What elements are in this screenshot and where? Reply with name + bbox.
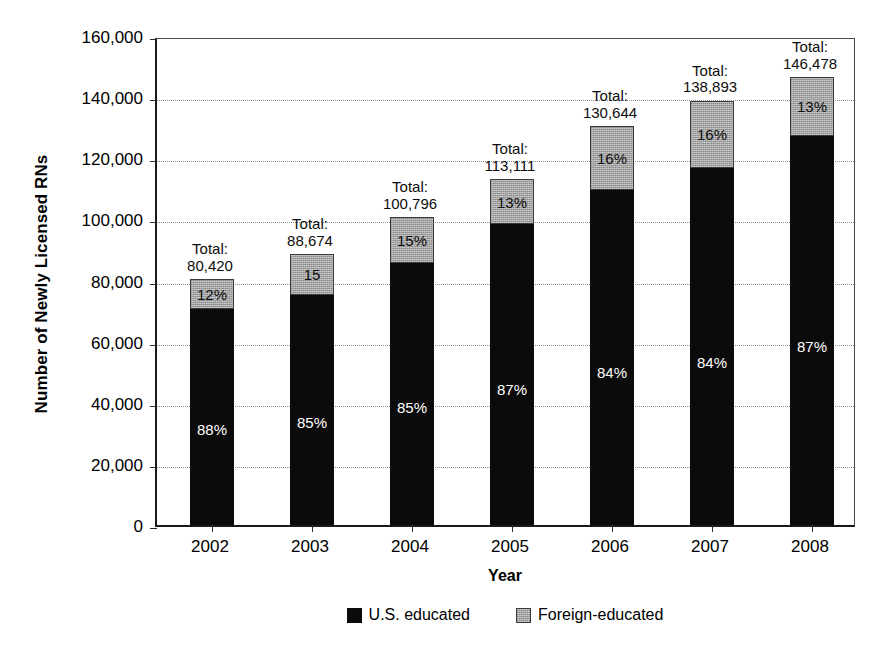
- bar-total-word: Total:: [435, 141, 585, 158]
- y-axis-tick-label: 140,000: [23, 89, 143, 109]
- y-axis-tick-mark: [150, 406, 157, 407]
- bar-segment-foreign-educated[interactable]: 13%: [790, 77, 834, 135]
- y-axis-tick-mark: [150, 467, 157, 468]
- x-axis-tick-mark: [412, 525, 413, 532]
- bar-2002[interactable]: 88%12%: [190, 279, 234, 525]
- bar-segment-us-educated[interactable]: 84%: [590, 190, 634, 525]
- bar-total-value: 130,644: [535, 105, 685, 122]
- y-axis-tick-mark: [150, 284, 157, 285]
- bar-segment-label-us: 87%: [791, 339, 833, 354]
- bar-segment-us-educated[interactable]: 85%: [290, 295, 334, 525]
- bar-2003[interactable]: 85%15: [290, 254, 334, 525]
- y-axis-tick-label: 60,000: [23, 334, 143, 354]
- bar-segment-label-us: 84%: [591, 365, 633, 380]
- bar-segment-label-foreign: 16%: [591, 151, 633, 166]
- y-axis-tick-label: 80,000: [23, 273, 143, 293]
- bar-segment-label-foreign: 15: [291, 267, 333, 282]
- bar-segment-foreign-educated[interactable]: 13%: [490, 179, 534, 224]
- y-axis-tick-label: 40,000: [23, 395, 143, 415]
- bar-total-value: 146,478: [735, 56, 879, 73]
- y-axis-tick-mark: [150, 222, 157, 223]
- y-axis-tick-mark: [150, 161, 157, 162]
- bar-segment-foreign-educated[interactable]: 16%: [590, 126, 634, 190]
- bar-segment-foreign-educated[interactable]: 16%: [690, 101, 734, 169]
- bar-segment-label-us: 85%: [291, 415, 333, 430]
- legend-swatch-icon: [516, 608, 531, 623]
- bar-total-value: 100,796: [335, 196, 485, 213]
- chart-legend: U.S. educatedForeign-educated: [155, 606, 855, 624]
- bar-segment-label-us: 85%: [391, 400, 433, 415]
- x-axis-tick-mark: [512, 525, 513, 532]
- bar-2008[interactable]: 87%13%: [790, 77, 834, 525]
- y-axis-tick-mark: [150, 100, 157, 101]
- legend-swatch-icon: [347, 608, 362, 623]
- legend-item-label: Foreign-educated: [538, 606, 663, 624]
- bar-total-annotation: Total:113,111: [435, 141, 585, 175]
- x-axis-tick-mark: [712, 525, 713, 532]
- bar-segment-us-educated[interactable]: 87%: [490, 224, 534, 525]
- legend-item-us-educated[interactable]: U.S. educated: [347, 606, 470, 624]
- x-axis-title: Year: [155, 567, 855, 585]
- bar-segment-foreign-educated[interactable]: 15%: [390, 217, 434, 263]
- bar-segment-us-educated[interactable]: 84%: [690, 168, 734, 525]
- plot-area: 88%12%85%1585%15%87%13%84%16%84%16%87%13…: [155, 38, 855, 527]
- bar-segment-label-foreign: 16%: [691, 127, 733, 142]
- gridline: [157, 100, 854, 101]
- bar-segment-foreign-educated[interactable]: 15: [290, 254, 334, 295]
- bar-total-value: 80,420: [135, 258, 285, 275]
- bar-2004[interactable]: 85%15%: [390, 217, 434, 525]
- x-axis-tick-label-2008: 2008: [750, 537, 870, 557]
- bar-2006[interactable]: 84%16%: [590, 126, 634, 525]
- bar-segment-label-foreign: 12%: [191, 287, 233, 302]
- bar-2007[interactable]: 84%16%: [690, 101, 734, 525]
- bar-total-value: 113,111: [435, 158, 585, 175]
- stacked-bar-chart: Number of Newly Licensed RNs 88%12%85%15…: [0, 0, 879, 645]
- bar-2005[interactable]: 87%13%: [490, 179, 534, 525]
- bar-total-word: Total:: [235, 216, 385, 233]
- bar-total-word: Total:: [335, 179, 485, 196]
- y-axis-tick-mark: [150, 39, 157, 40]
- y-axis-tick-mark: [150, 528, 157, 529]
- bar-total-annotation: Total:100,796: [335, 179, 485, 213]
- y-axis-tick-label: 160,000: [23, 28, 143, 48]
- legend-item-foreign-educated[interactable]: Foreign-educated: [516, 606, 663, 624]
- bar-segment-label-foreign: 15%: [391, 233, 433, 248]
- bar-segment-label-us: 84%: [691, 355, 733, 370]
- y-axis-tick-label: 0: [23, 517, 143, 537]
- bar-segment-label-foreign: 13%: [791, 99, 833, 114]
- y-axis-tick-label: 20,000: [23, 456, 143, 476]
- bar-segment-label-us: 88%: [191, 422, 233, 437]
- bar-total-value: 138,893: [635, 79, 785, 96]
- y-axis-tick-mark: [150, 345, 157, 346]
- y-axis-tick-label: 100,000: [23, 211, 143, 231]
- bar-total-word: Total:: [735, 39, 879, 56]
- x-axis-tick-mark: [312, 525, 313, 532]
- bar-total-value: 88,674: [235, 233, 385, 250]
- bar-segment-us-educated[interactable]: 87%: [790, 136, 834, 525]
- bar-total-annotation: Total:88,674: [235, 216, 385, 250]
- bar-segment-us-educated[interactable]: 88%: [190, 309, 234, 525]
- x-axis-tick-mark: [612, 525, 613, 532]
- x-axis-tick-mark: [812, 525, 813, 532]
- x-axis-tick-mark: [212, 525, 213, 532]
- bar-segment-label-foreign: 13%: [491, 195, 533, 210]
- bar-segment-foreign-educated[interactable]: 12%: [190, 279, 234, 308]
- legend-item-label: U.S. educated: [369, 606, 470, 624]
- y-axis-tick-label: 120,000: [23, 150, 143, 170]
- bar-segment-us-educated[interactable]: 85%: [390, 263, 434, 525]
- bar-total-annotation: Total:146,478: [735, 39, 879, 73]
- bar-segment-label-us: 87%: [491, 382, 533, 397]
